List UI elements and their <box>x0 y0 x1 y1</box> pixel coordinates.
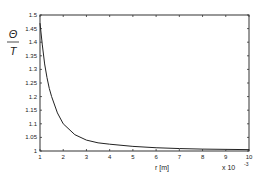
y-tick-label: 1.4 <box>29 39 38 45</box>
y-tick-label: 1.1 <box>29 121 38 127</box>
x-tick-label: 5 <box>131 154 135 160</box>
y-tick-label: 1 <box>34 148 38 154</box>
y-tick-label: 1.5 <box>29 12 38 18</box>
x-tick-label: 8 <box>201 154 205 160</box>
x-tick-label: 1 <box>38 154 42 160</box>
x-axis-multiplier-exponent: -3 <box>244 161 249 167</box>
y-tick-label: 1.3 <box>29 66 38 72</box>
x-axis-multiplier: x 10 <box>222 164 235 171</box>
y-tick-label: 1.45 <box>25 26 37 32</box>
x-tick-label: 9 <box>224 154 228 160</box>
y-tick-label: 1.15 <box>25 107 37 113</box>
y-tick-label: 1.05 <box>25 134 37 140</box>
x-tick-label: 7 <box>178 154 182 160</box>
y-axis-label-numerator: Θ <box>9 28 18 40</box>
chart: 1234567891011.051.11.151.21.251.31.351.4… <box>0 0 258 184</box>
y-tick-label: 1.35 <box>25 53 37 59</box>
y-tick-label: 1.2 <box>29 94 38 100</box>
x-tick-label: 10 <box>246 154 253 160</box>
x-tick-label: 2 <box>62 154 66 160</box>
y-axis-label-denominator: T <box>10 45 18 57</box>
x-axis-label: r [m] <box>155 164 169 172</box>
x-tick-label: 4 <box>108 154 112 160</box>
data-line <box>40 23 249 149</box>
plot-frame <box>40 15 249 151</box>
x-tick-label: 3 <box>85 154 89 160</box>
x-tick-label: 6 <box>154 154 158 160</box>
y-tick-label: 1.25 <box>25 80 37 86</box>
